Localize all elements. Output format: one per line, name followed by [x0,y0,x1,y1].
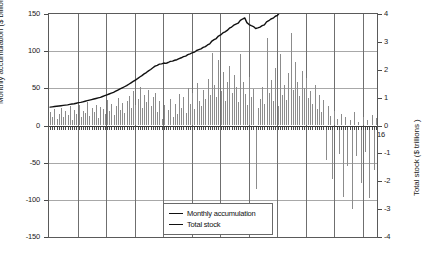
x-axis-minor-tick [352,127,353,130]
x-axis-minor-tick [144,127,145,130]
x-axis-minor-tick [140,127,141,130]
y-axis-left-tick-label: -100 [14,195,40,204]
x-axis-minor-tick [247,127,248,130]
x-axis-minor-tick [52,127,53,130]
x-axis-minor-tick [70,127,71,130]
x-axis-minor-tick [83,127,84,130]
x-axis-minor-tick [118,127,119,130]
legend-item-label: Total stock [187,220,220,229]
x-axis-minor-tick [208,127,209,130]
x-axis-minor-tick [356,127,357,130]
x-axis-minor-tick [68,127,69,130]
x-axis-minor-tick [188,127,189,130]
zero-baseline [49,126,377,127]
x-axis-minor-tick [103,127,104,130]
x-axis-minor-tick [179,127,180,130]
x-axis-minor-tick [236,127,237,130]
x-axis-minor-tick [321,127,322,130]
x-axis-minor-tick [312,127,313,130]
legend-item-label: Monthly accumulation [187,209,256,218]
x-axis-minor-tick [365,127,366,130]
x-axis-minor-tick [262,127,263,130]
x-axis-minor-tick [258,127,259,130]
x-axis-minor-tick [337,127,338,130]
legend-line-icon [169,224,183,225]
x-axis-minor-tick [92,127,93,130]
x-axis-minor-tick [81,127,82,130]
x-axis-minor-tick [282,127,283,130]
x-axis-minor-tick [376,127,377,130]
x-axis-minor-tick [341,127,342,130]
x-axis-minor-tick [293,127,294,130]
x-axis-minor-tick [89,127,90,130]
x-axis-minor-tick [245,127,246,130]
x-axis-minor-tick [72,127,73,130]
x-axis-minor-tick [227,127,228,130]
x-axis-minor-tick [243,127,244,130]
x-axis-minor-tick [234,127,235,130]
x-axis-minor-tick [157,127,158,130]
x-axis-minor-tick [260,127,261,130]
x-axis-minor-tick [251,127,252,130]
x-axis-minor-tick [210,127,211,130]
x-axis-minor-tick [326,127,327,130]
x-axis-minor-tick [323,127,324,130]
x-axis-minor-tick [100,127,101,130]
x-axis-minor-tick [302,127,303,130]
y-axis-right-tick-mark [378,42,382,43]
y-axis-right-tick-label: 0 [384,121,406,130]
y-axis-right-tick-mark [378,98,382,99]
x-axis-minor-tick [122,127,123,130]
x-axis-minor-tick [216,127,217,130]
x-axis-minor-tick [109,127,110,130]
x-axis-minor-tick [278,127,279,130]
x-axis-minor-tick [221,127,222,130]
x-axis-minor-tick [151,127,152,130]
x-axis-minor-tick [190,127,191,130]
x-axis-minor-tick [358,127,359,130]
x-axis-minor-tick [308,127,309,130]
y-axis-left-tick-label: -50 [14,158,40,167]
x-axis-minor-tick [181,127,182,130]
x-axis-minor-tick [212,127,213,130]
x-axis-minor-tick [229,127,230,130]
x-axis-minor-tick [85,127,86,130]
chart-legend: Monthly accumulation Total stock [163,203,273,235]
x-axis-minor-tick [50,127,51,130]
x-axis-minor-tick [175,127,176,130]
x-axis-minor-tick [267,127,268,130]
x-axis-minor-tick [297,127,298,130]
x-axis-minor-tick [256,127,257,130]
y-axis-left-tick-label: 150 [14,9,40,18]
x-axis-minor-tick [148,127,149,130]
x-axis-minor-tick [170,127,171,130]
x-axis-minor-tick [280,127,281,130]
x-axis-minor-tick [79,127,80,130]
x-axis-minor-tick [343,127,344,130]
x-axis-minor-tick [367,127,368,130]
x-axis-minor-tick [65,127,66,130]
x-axis-minor-tick [135,127,136,130]
y-axis-right-tick-mark [378,70,382,71]
x-axis-minor-tick [372,127,373,130]
x-axis-minor-tick [107,127,108,130]
x-axis-minor-tick [328,127,329,130]
x-axis-minor-tick [127,127,128,130]
x-axis-minor-tick [114,127,115,130]
x-axis-minor-tick [271,127,272,130]
legend-item-monthly-accumulation: Monthly accumulation [169,208,267,218]
x-axis-minor-tick [98,127,99,130]
x-axis-minor-tick [347,127,348,130]
y-axis-right-tick-mark [378,14,382,15]
legend-line-icon [169,213,183,214]
x-axis-minor-tick [315,127,316,130]
x-axis-minor-tick [138,127,139,130]
x-axis-minor-tick [304,127,305,130]
x-axis-minor-tick [183,127,184,130]
x-axis-minor-tick [192,127,193,130]
x-axis-minor-tick [164,127,165,130]
x-axis-minor-tick [146,127,147,130]
x-axis-minor-tick [225,127,226,130]
x-axis-minor-tick [205,127,206,130]
x-axis-minor-tick [168,127,169,130]
